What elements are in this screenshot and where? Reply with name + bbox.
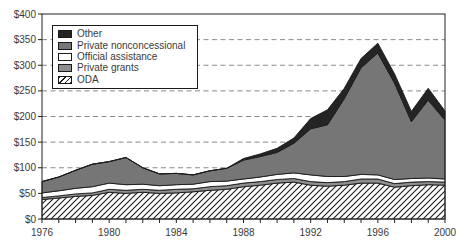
svg-text:$300: $300 [14,60,37,71]
svg-text:$400: $400 [14,9,37,20]
legend-swatch-official-assistance-icon [58,53,72,61]
legend-label-private-grants: Private grants [77,63,139,73]
svg-text:$350: $350 [14,34,37,45]
svg-text:$0: $0 [25,214,37,225]
svg-text:1996: 1996 [367,227,390,238]
legend-swatch-other-icon [58,30,72,38]
svg-text:1992: 1992 [300,227,323,238]
legend-swatch-private-nonconcessional-icon [58,42,72,50]
legend-item-oda: ODA [58,75,193,85]
legend-swatch-oda-icon [58,76,72,84]
svg-text:$150: $150 [14,137,37,148]
svg-text:$50: $50 [19,188,36,199]
svg-text:$200: $200 [14,111,37,122]
legend-label-official-assistance: Official assistance [77,52,157,62]
svg-text:2000: 2000 [434,227,457,238]
svg-text:$100: $100 [14,162,37,173]
legend-label-oda: ODA [77,75,99,85]
legend-item-private-nonconcessional: Private nonconcessional [58,41,193,51]
legend-item-official-assistance: Official assistance [58,52,193,62]
legend-swatch-private-grants-icon [58,64,72,72]
svg-text:1984: 1984 [165,227,188,238]
legend-label-other: Other [77,29,102,39]
stacked-area-chart-figure: $0$50$100$150$200$250$300$350$4001976198… [0,0,467,246]
chart-legend: Other Private nonconcessional Official a… [52,25,198,89]
svg-text:$250: $250 [14,85,37,96]
legend-label-private-nonconcessional: Private nonconcessional [77,41,185,51]
svg-text:1988: 1988 [232,227,255,238]
legend-item-other: Other [58,29,193,39]
legend-item-private-grants: Private grants [58,63,193,73]
svg-text:1980: 1980 [98,227,121,238]
svg-text:1976: 1976 [31,227,54,238]
